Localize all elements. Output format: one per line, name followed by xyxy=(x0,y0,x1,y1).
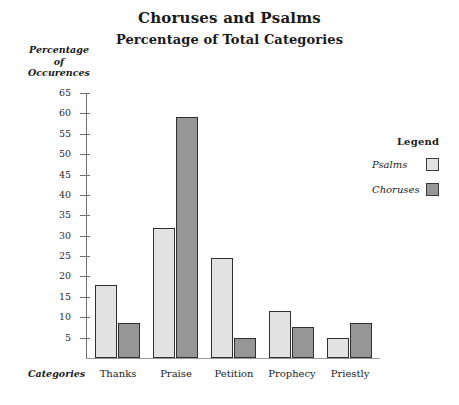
y-axis-tick-label: 65 xyxy=(59,86,71,99)
x-axis-tick-label: Priestly xyxy=(305,367,395,380)
bar-group: Prophecy xyxy=(269,88,314,358)
y-axis-label: Percentage of Occurences xyxy=(16,44,102,79)
bar-thanks-choruses xyxy=(118,323,140,358)
y-axis-tick-label: 20 xyxy=(59,269,71,282)
legend-item-choruses: Choruses xyxy=(372,182,458,196)
legend-item-psalms: Psalms xyxy=(372,157,458,171)
y-axis-tick-label: 25 xyxy=(59,249,71,262)
y-axis-tick-label: 55 xyxy=(59,127,71,140)
y-axis-tick-label: 45 xyxy=(59,168,71,181)
y-axis-tick-label: 30 xyxy=(59,229,71,242)
y-axis-tick-label: 50 xyxy=(59,147,71,160)
y-axis-tick-label: 15 xyxy=(59,290,71,303)
chart-page: Choruses and Psalms Percentage of Total … xyxy=(0,0,459,405)
title-block: Choruses and Psalms Percentage of Total … xyxy=(0,8,459,49)
bar-petition-choruses xyxy=(234,338,256,358)
bar-praise-choruses xyxy=(176,117,198,358)
y-axis-tick-label: 60 xyxy=(59,106,71,119)
y-axis-tick-label: 5 xyxy=(65,331,71,344)
bar-priestly-choruses xyxy=(350,323,372,358)
plot-area: 6560555045403530252015105 ThanksPraisePe… xyxy=(86,88,380,359)
y-axis-tick-label: 40 xyxy=(59,188,71,201)
x-axis-label: Categories xyxy=(28,367,85,380)
legend-label-choruses: Choruses xyxy=(372,183,426,196)
bar-group: Petition xyxy=(211,88,256,358)
y-axis-label-line-3: Occurences xyxy=(16,67,102,79)
y-axis-tick-label: 35 xyxy=(59,208,71,221)
bar-prophecy-psalms xyxy=(269,311,291,358)
bar-priestly-psalms xyxy=(327,338,349,358)
bar-prophecy-choruses xyxy=(292,327,314,358)
y-axis-label-line-1: Percentage xyxy=(16,44,102,56)
legend-swatch-psalms xyxy=(426,158,439,171)
chart-title: Choruses and Psalms xyxy=(0,8,459,28)
legend-label-psalms: Psalms xyxy=(372,158,426,171)
legend: Legend Psalms Choruses xyxy=(372,136,458,207)
bar-thanks-psalms xyxy=(95,285,117,358)
bar-petition-psalms xyxy=(211,258,233,358)
y-axis-tick-label: 10 xyxy=(59,310,71,323)
bar-group: Priestly xyxy=(327,88,372,358)
legend-swatch-choruses xyxy=(426,183,439,196)
legend-title: Legend xyxy=(372,136,458,147)
bar-group: Praise xyxy=(153,88,198,358)
bar-series-container: ThanksPraisePetitionProphecyPriestly xyxy=(86,88,380,359)
bar-praise-psalms xyxy=(153,228,175,358)
y-axis-label-line-2: of xyxy=(16,56,102,68)
bar-group: Thanks xyxy=(95,88,140,358)
